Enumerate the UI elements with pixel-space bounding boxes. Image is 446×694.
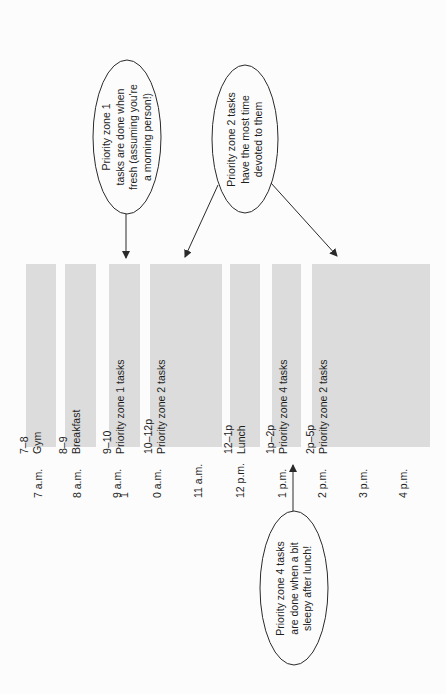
time-label-8am: 8 a.m. [71,469,83,498]
callout-text-zone-2: Priority zone 2 tasks have the most time… [225,80,266,200]
time-label-4pm: 4 p.m. [397,469,409,498]
callout-line: devoted to them [252,80,266,200]
block-time-range: 10–12p [142,359,155,454]
time-label-1pm: 1 p.m. [276,469,288,498]
callout-text-zone-1: Priority zone 1 tasks are done when fres… [100,77,154,197]
block-time-range: 1p–2p [264,359,277,454]
block-time-range: 7–8 [18,432,31,454]
block-label: Breakfast [70,410,83,454]
schedule-block-priority-zone-1: 9–10 Priority zone 1 tasks [109,264,140,447]
callout-line: Priority zone 4 tasks [274,529,288,649]
time-label-10am-fragment-0: 0 a.m. [151,469,163,498]
arrow-to-zone-2-morning-block [185,185,218,257]
block-label: Priority zone 2 tasks [155,359,168,454]
callout-line: a morning person!) [141,77,155,197]
schedule-block-breakfast: 8–9 Breakfast [65,264,96,447]
block-label: Priority zone 4 tasks [277,359,290,454]
time-label-3pm: 3 p.m. [357,469,369,498]
callout-line: sleepy after lunch! [301,529,315,649]
callout-line: are done when a bit [287,529,301,649]
callout-line: Priority zone 1 [100,77,114,197]
schedule-block-priority-zone-4: 1p–2p Priority zone 4 tasks [272,264,301,447]
schedule-block-gym: 7–8 Gym [26,264,56,447]
time-label-12pm: 12 p.m. [234,463,246,498]
daily-schedule-diagram: 7–8 Gym 8–9 Breakfast 9–10 Priority zone… [0,0,446,694]
block-label: Gym [31,432,44,454]
callout-line: have the most time [238,80,252,200]
block-time-range: 12–1p [222,425,235,454]
callout-line: Priority zone 2 tasks [225,80,239,200]
time-label-10am-fragment-1: 1 [118,492,130,498]
schedule-block-priority-zone-2-afternoon: 2p–5p Priority zone 2 tasks [312,264,430,447]
callout-line: fresh (assuming you're [127,77,141,197]
block-time-range: 9–10 [101,359,114,454]
time-label-11am: 11 a.m. [192,464,204,498]
time-label-2pm: 2 p.m. [316,469,328,498]
callout-line: tasks are done when [114,77,128,197]
time-label-7am: 7 a.m. [32,469,44,498]
callout-text-zone-4: Priority zone 4 tasks are done when a bi… [274,529,315,649]
block-label: Lunch [235,425,248,454]
schedule-block-lunch: 12–1p Lunch [230,264,260,447]
block-time-range: 2p–5p [304,359,317,454]
block-label: Priority zone 1 tasks [114,359,127,454]
block-time-range: 8–9 [57,410,70,454]
arrow-to-zone-2-afternoon-block [271,183,337,256]
schedule-block-priority-zone-2-morning: 10–12p Priority zone 2 tasks [150,264,222,447]
block-label: Priority zone 2 tasks [317,359,330,454]
